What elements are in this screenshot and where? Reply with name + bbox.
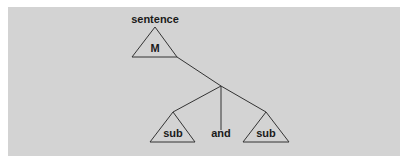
- tree-diagram: [0, 0, 407, 165]
- right-branch: [221, 86, 266, 112]
- left-branch: [173, 86, 221, 112]
- root-node-label: M: [150, 42, 159, 54]
- right-sub-label: sub: [256, 127, 276, 139]
- left-sub-label: sub: [163, 127, 183, 139]
- root-label: sentence: [131, 13, 179, 25]
- conjunction-label: and: [211, 127, 231, 139]
- root-branch: [177, 57, 221, 86]
